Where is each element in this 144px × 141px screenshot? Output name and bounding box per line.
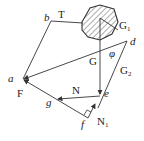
label-d: d [130, 35, 136, 47]
label-b: b [44, 11, 50, 23]
force-diagram: b T G1 d φ G G2 a F N e g f N1 [0, 0, 144, 141]
label-T: T [58, 8, 65, 20]
label-f: f [81, 118, 86, 130]
label-G: G [89, 55, 97, 67]
edge-T [51, 21, 83, 23]
label-e: e [104, 87, 109, 99]
label-G1: G1 [119, 19, 131, 33]
label-phi: φ [109, 47, 115, 59]
label-G2: G2 [120, 64, 132, 78]
edge-N [58, 96, 100, 99]
label-a: a [8, 72, 14, 84]
label-N1: N1 [97, 115, 109, 129]
label-N: N [72, 84, 80, 96]
label-g: g [46, 96, 52, 108]
label-F: F [17, 87, 23, 99]
